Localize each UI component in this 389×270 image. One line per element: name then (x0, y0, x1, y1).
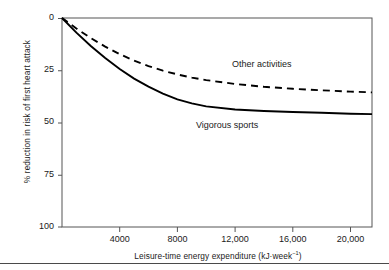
y-tick-label-100: 100 (28, 221, 54, 231)
x-tick-label-4000: 4000 (97, 234, 143, 244)
x-tick-label-12000: 12,000 (212, 234, 258, 244)
y-axis-ticks (58, 19, 62, 228)
chart-plot-area (0, 0, 389, 270)
annotation-vigorous-sports: Vigorous sports (196, 120, 258, 130)
y-tick-label-50: 50 (28, 116, 54, 126)
x-axis-title-end: ) (299, 251, 302, 261)
x-axis-title-main: Leisure-time energy expenditure (kJ·week (134, 251, 292, 261)
annotation-other-activities: Other activities (232, 59, 292, 69)
x-tick-label-20000: 20,000 (328, 234, 374, 244)
y-tick-label-0: 0 (28, 12, 54, 22)
y-axis-title: % reduction in risk of first heart attac… (23, 7, 32, 217)
x-axis-ticks (120, 227, 351, 232)
y-tick-label-75: 75 (28, 169, 54, 179)
x-axis-title: Leisure-time energy expenditure (kJ·week… (62, 250, 374, 261)
bottom-divider (0, 263, 389, 264)
x-axis-title-exponent: −1 (292, 250, 299, 256)
x-tick-label-16000: 16,000 (270, 234, 316, 244)
chart-figure: % reduction in risk of first heart attac… (0, 0, 389, 270)
x-tick-label-8000: 8000 (154, 234, 200, 244)
y-tick-label-25: 25 (28, 64, 54, 74)
